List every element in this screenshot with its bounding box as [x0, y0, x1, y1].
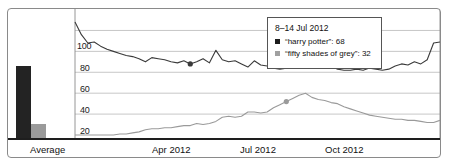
- x-tick-apr-2012: Apr 2012: [152, 144, 191, 155]
- y-tick-20: 20: [80, 126, 90, 136]
- average-bar-harry-potter: [16, 66, 31, 138]
- y-tick-40: 40: [80, 105, 90, 115]
- trends-chart-screenshot: 100 80 60 40 20 Average Apr 2012 Jul 201…: [0, 0, 449, 166]
- x-tick-oct-2012: Oct 2012: [325, 144, 364, 155]
- y-tick-60: 60: [80, 84, 90, 94]
- hover-tooltip: 8–14 Jul 2012 “harry potter”: 68 “fifty …: [267, 17, 382, 69]
- tooltip-label-harry-potter: “harry potter”: 68: [285, 37, 345, 46]
- highlight-marker-fifty-shades-of-grey: [284, 99, 289, 104]
- highlight-marker-harry-potter: [188, 61, 193, 66]
- x-tick-average: Average: [30, 144, 65, 155]
- tooltip-label-fifty-shades: “fifty shades of grey”: 32: [285, 49, 371, 58]
- series-swatch-icon-fifty-shades: [275, 51, 280, 56]
- x-axis-strip: Average Apr 2012 Jul 2012 Oct 2012: [8, 138, 440, 157]
- tooltip-row-harry-potter: “harry potter”: 68: [275, 37, 375, 46]
- series-line-harry-potter: [75, 22, 440, 70]
- y-tick-80: 80: [80, 63, 90, 73]
- tooltip-date-range: 8–14 Jul 2012: [275, 23, 375, 33]
- x-tick-jul-2012: Jul 2012: [240, 144, 276, 155]
- average-bar-fifty-shades: [31, 124, 46, 138]
- series-swatch-icon-harry-potter: [275, 39, 280, 44]
- y-tick-100: 100: [77, 41, 91, 51]
- tooltip-row-fifty-shades: “fifty shades of grey”: 32: [275, 49, 375, 58]
